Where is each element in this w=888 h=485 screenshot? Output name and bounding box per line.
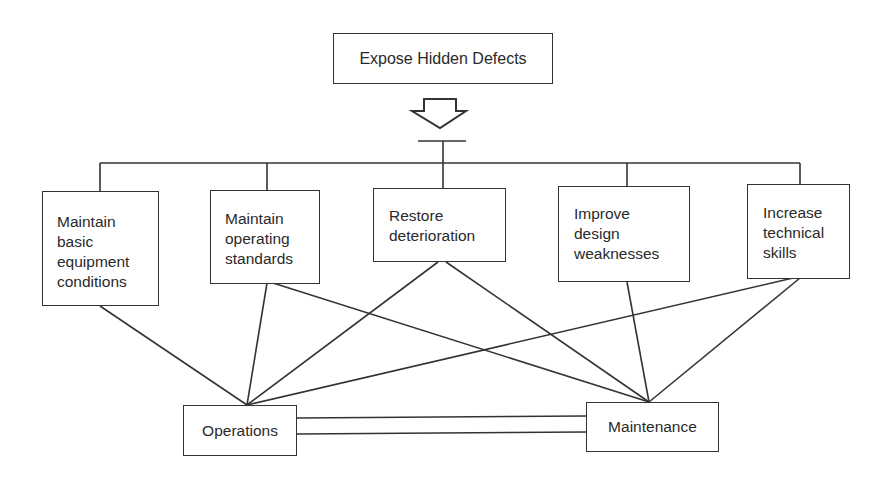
activity-label: Restore deterioration: [389, 206, 475, 246]
activity-box-maintain-basic-conditions: Maintain basic equipment conditions: [42, 191, 159, 306]
operations-label: Operations: [202, 422, 278, 440]
activity-label: Maintain operating standards: [225, 209, 293, 269]
maintenance-box: Maintenance: [586, 402, 719, 452]
maintenance-label: Maintenance: [608, 418, 697, 436]
expose-hidden-defects-label: Expose Hidden Defects: [359, 50, 526, 68]
expose-hidden-defects-box: Expose Hidden Defects: [333, 33, 553, 84]
activity-box-improve-design-weaknesses: Improve design weaknesses: [558, 186, 690, 282]
activity-label: Maintain basic equipment conditions: [57, 212, 129, 292]
activity-label: Improve design weaknesses: [574, 204, 659, 264]
down-arrow-icon: [412, 99, 466, 128]
activity-box-maintain-operating-standards: Maintain operating standards: [210, 190, 320, 284]
operations-box: Operations: [183, 405, 297, 456]
activity-box-increase-technical-skills: Increase technical skills: [747, 184, 850, 279]
activity-box-restore-deterioration: Restore deterioration: [373, 188, 506, 262]
activity-label: Increase technical skills: [763, 203, 824, 263]
